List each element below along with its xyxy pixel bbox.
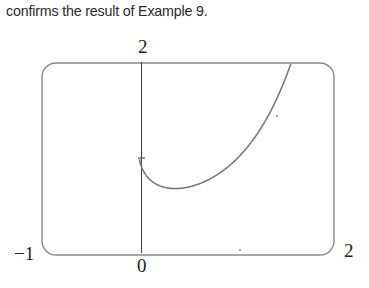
viewing-window-frame bbox=[42, 63, 334, 255]
graphing-calculator-plot bbox=[0, 0, 369, 288]
function-curve bbox=[139, 64, 290, 189]
speck bbox=[239, 249, 241, 251]
speck bbox=[276, 115, 278, 117]
